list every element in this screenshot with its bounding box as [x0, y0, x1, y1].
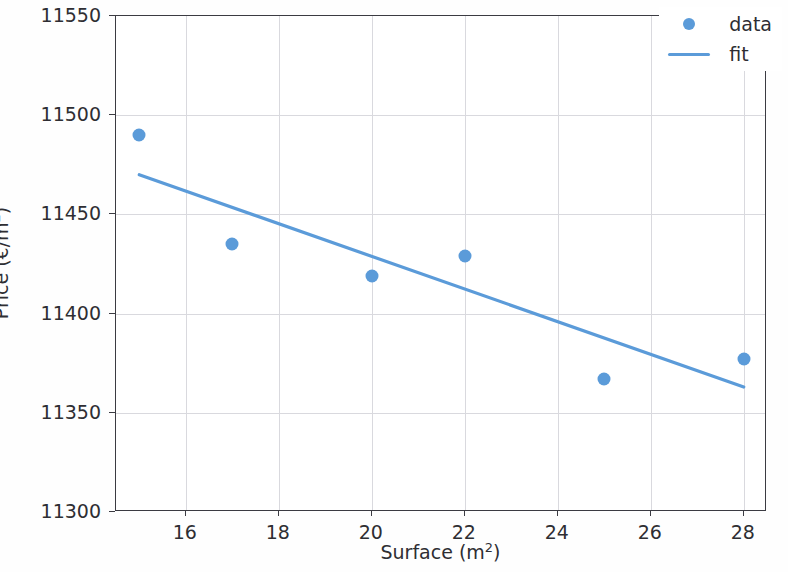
data-point — [133, 129, 146, 142]
x-axis-title-superscript: 2 — [485, 540, 493, 555]
legend-line-icon — [667, 53, 711, 56]
x-axis-tick-label: 28 — [731, 521, 755, 543]
data-point — [226, 238, 239, 251]
chart-legend: data fit — [659, 7, 782, 71]
data-point — [458, 250, 471, 263]
legend-label-data: data — [729, 13, 772, 35]
y-axis-tick-label: 11400 — [0, 302, 101, 324]
legend-entry-data: data — [667, 13, 772, 35]
legend-label-fit: fit — [729, 43, 748, 65]
chart-figure: Price (€/m2) Surface (m2) 16182022242628… — [0, 0, 788, 572]
data-point — [598, 373, 611, 386]
data-point-layer — [116, 16, 765, 510]
legend-entry-fit: fit — [667, 43, 772, 65]
x-axis-tick-label: 18 — [266, 521, 290, 543]
x-axis-title: Surface (m2) — [115, 540, 766, 563]
x-axis-title-suffix: ) — [493, 541, 500, 563]
x-axis-tick-label: 22 — [452, 521, 476, 543]
y-axis-tick-label: 11550 — [0, 4, 101, 26]
legend-marker-icon — [667, 18, 711, 30]
y-axis-tick-label: 11450 — [0, 202, 101, 224]
x-axis-tick-label: 16 — [173, 521, 197, 543]
y-axis-tick — [109, 511, 115, 512]
y-axis-tick-label: 11300 — [0, 500, 101, 522]
y-axis-tick-label: 11500 — [0, 103, 101, 125]
y-axis-tick-label: 11350 — [0, 401, 101, 423]
data-point — [365, 269, 378, 282]
plot-area — [115, 15, 766, 511]
x-axis-title-text: Surface (m — [381, 541, 485, 563]
x-axis-tick-label: 26 — [638, 521, 662, 543]
data-point — [737, 353, 750, 366]
x-axis-tick-label: 24 — [545, 521, 569, 543]
x-axis-tick-label: 20 — [359, 521, 383, 543]
